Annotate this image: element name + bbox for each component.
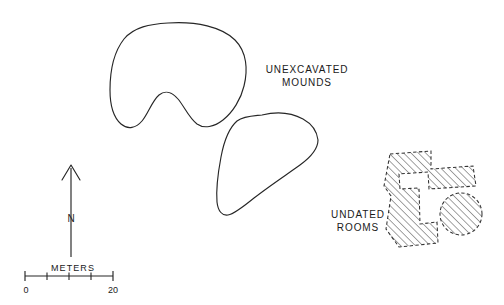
scale-bar-min-label: 0 xyxy=(18,284,34,297)
unexcavated-mounds-group xyxy=(110,23,318,216)
upper-mound-outline xyxy=(110,23,246,128)
undated-rooms-label: UNDATED ROOMS xyxy=(320,208,396,234)
scale-bar-caption: METERS xyxy=(38,262,108,275)
site-plan-map: UNEXCAVATED MOUNDS UNDATED ROOMS N METER… xyxy=(0,0,504,305)
lower-mound-outline xyxy=(217,113,318,215)
undated-rooms-group xyxy=(375,140,490,260)
north-arrow xyxy=(62,165,80,257)
round-room-hatch xyxy=(438,191,486,239)
north-arrow-label: N xyxy=(64,212,78,225)
unexcavated-mounds-label: UNEXCAVATED MOUNDS xyxy=(252,63,362,89)
scale-bar-max-label: 20 xyxy=(104,284,122,297)
map-canvas xyxy=(0,0,504,305)
